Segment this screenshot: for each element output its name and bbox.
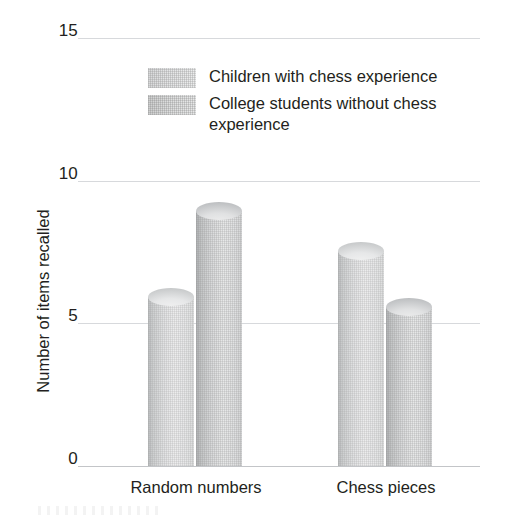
gridline-baseline-0 bbox=[78, 466, 480, 467]
x-tick-label-random-numbers: Random numbers bbox=[118, 478, 274, 497]
y-tick-label-0: 0 bbox=[44, 450, 78, 467]
gridline-15 bbox=[78, 38, 480, 39]
y-tick-label-15: 15 bbox=[44, 22, 78, 39]
bar-body bbox=[148, 297, 194, 466]
bar-top-ellipse bbox=[338, 242, 384, 260]
legend-swatch-series-1 bbox=[148, 68, 196, 88]
bar-chess-pieces-college bbox=[386, 298, 432, 466]
bar-random-numbers-children bbox=[148, 288, 194, 466]
bar-body bbox=[386, 307, 432, 466]
bar-chess-pieces-children bbox=[338, 242, 384, 466]
scan-artifact bbox=[38, 506, 158, 515]
y-tick-0: 0 bbox=[44, 450, 78, 467]
bar-random-numbers-college bbox=[196, 202, 242, 466]
y-tick-15: 15 bbox=[44, 22, 78, 39]
bar-top-ellipse bbox=[148, 288, 194, 306]
chart-legend: Children with chess experience College s… bbox=[148, 66, 488, 139]
legend-item-college-students: College students without chess experienc… bbox=[148, 93, 488, 134]
bar-top-ellipse bbox=[386, 298, 432, 316]
y-axis-title: Number of items recalled bbox=[34, 176, 52, 426]
bar-chart: 15 10 5 0 Number of items recalled Child… bbox=[0, 0, 507, 521]
x-tick-label-chess-pieces: Chess pieces bbox=[320, 478, 452, 497]
gridline-10 bbox=[78, 181, 480, 182]
legend-label-series-1: Children with chess experience bbox=[209, 66, 437, 87]
bar-body bbox=[338, 251, 384, 466]
legend-label-series-2: College students without chess experienc… bbox=[209, 93, 488, 134]
legend-swatch-series-2 bbox=[148, 95, 196, 115]
bar-top-ellipse bbox=[196, 202, 242, 220]
legend-item-children: Children with chess experience bbox=[148, 66, 488, 88]
bar-body bbox=[196, 211, 242, 466]
